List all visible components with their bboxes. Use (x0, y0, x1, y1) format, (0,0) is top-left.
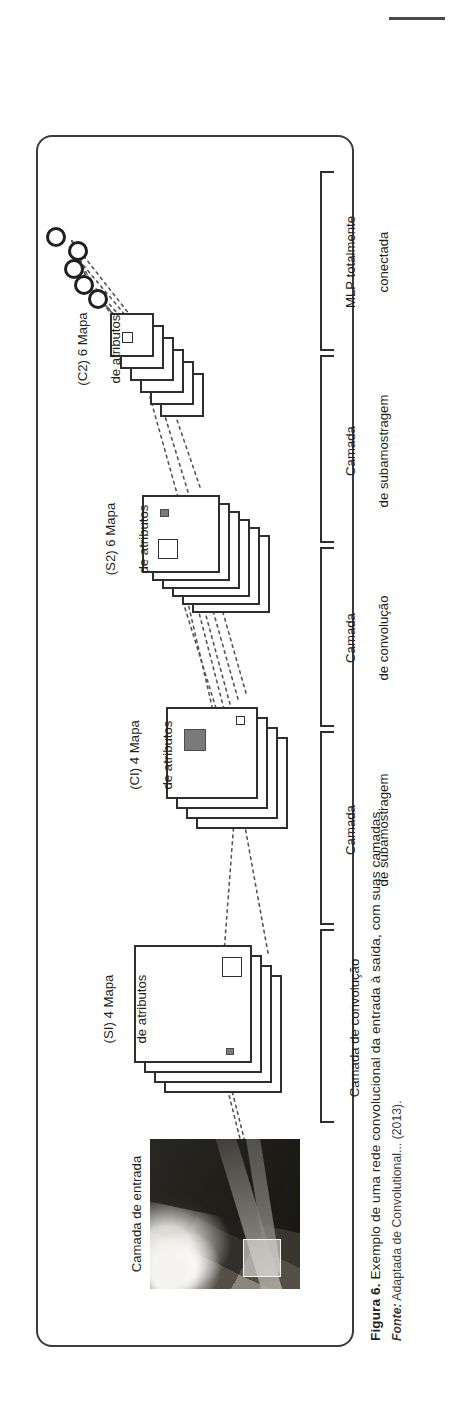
active-patch (184, 729, 206, 751)
layer-label-s1: (SI) 4 Mapa de atributos (84, 919, 150, 1099)
pixel-marker (236, 716, 245, 725)
mlp-neuron (68, 241, 88, 261)
layer-label-c2-line1: (C2) 6 Mapa (74, 312, 89, 385)
layer-label-c1: (CI) 4 Mapa de atributos (110, 665, 176, 845)
stack-c2 (110, 297, 222, 417)
mlp-neuron (46, 227, 66, 247)
bracket-label-conv1: Camada de convolução (330, 923, 363, 1133)
bracket-label-conv1-line1: Camada de convolução (346, 958, 361, 1097)
input-image (150, 1139, 300, 1289)
bracket-label-sub1-line1: Camada (342, 805, 357, 855)
pixel-marker (160, 509, 169, 517)
figure-caption: Figura 6. Exemplo de uma rede convolucio… (366, 111, 385, 1341)
bracket-label-conv2-line1: Camada (342, 613, 357, 663)
figure-source: Fonte: Adaptada de Convolutional... (201… (388, 111, 406, 1341)
feature-map (142, 495, 220, 573)
bracket-label-sub2-line1: Camada (342, 426, 357, 476)
stack-s2 (142, 473, 274, 613)
feature-map (134, 945, 252, 1063)
layer-label-s2-line2: de atributos (135, 504, 150, 573)
pixel-marker (226, 1048, 234, 1055)
figure-source-label: Fonte: (390, 1303, 404, 1341)
figure-caption-text: Exemplo de uma rede convolucional da ent… (368, 807, 383, 1283)
feature-map (166, 707, 258, 799)
figure-caption-number: Figura 6. (368, 1283, 383, 1341)
layer-label-s2: (S2) 6 Mapa de atributos (86, 449, 152, 629)
receptive-window (222, 957, 242, 977)
stack-c1 (166, 689, 296, 829)
input-receptive-field-box (243, 1239, 281, 1277)
figure-frame: Camada de entrada (SI) 4 Mapa de atribut… (36, 135, 354, 1347)
page-top-rule (389, 17, 445, 20)
bracket-label-mlp-line1: MLP totalmente (342, 215, 357, 307)
layer-label-input-line1: Camada de entrada (128, 1155, 143, 1272)
layer-label-s1-line1: (SI) 4 Mapa (100, 974, 115, 1043)
layer-label-s1-line2: de atributos (133, 974, 148, 1043)
layer-label-input: Camada de entrada (112, 1123, 145, 1305)
layer-label-c1-line1: (CI) 4 Mapa (126, 720, 141, 790)
layer-label-s2-line1: (S2) 6 Mapa (102, 502, 117, 575)
receptive-window (158, 539, 178, 559)
cnn-architecture-diagram: Camada de entrada (SI) 4 Mapa de atribut… (38, 133, 356, 1345)
rotated-page-stage: Camada de entrada (SI) 4 Mapa de atribut… (30, 65, 428, 1355)
layer-label-c1-line2: de atributos (159, 720, 174, 789)
figure-source-text: Adaptada de Convolutional... (2013). (390, 1100, 404, 1303)
figure-caption-block: Figura 6. Exemplo de uma rede convolucio… (366, 111, 406, 1341)
mlp-neuron (64, 259, 84, 279)
stack-s1 (134, 933, 294, 1093)
layer-label-c2-line2: de atributos (107, 314, 122, 383)
